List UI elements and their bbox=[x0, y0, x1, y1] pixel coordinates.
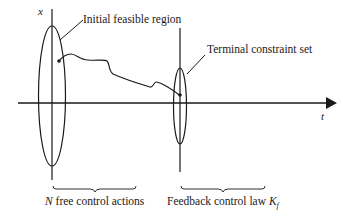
feedback-law-brace bbox=[181, 186, 265, 192]
free-actions-text: free control actions bbox=[53, 195, 145, 207]
free-control-actions-label: N free control actions bbox=[45, 196, 144, 208]
diagram-graphics bbox=[0, 0, 343, 218]
gain-variable: K bbox=[269, 195, 277, 207]
feedback-control-law-label: Feedback control law Kf bbox=[167, 196, 279, 210]
gain-subscript: f bbox=[277, 201, 279, 210]
initial-region-leader bbox=[60, 20, 83, 40]
diagram-canvas: x t Initial feasible region Terminal con… bbox=[0, 0, 343, 218]
trajectory-end-point bbox=[178, 93, 182, 97]
initial-region-label: Initial feasible region bbox=[83, 14, 181, 26]
state-axis-label: x bbox=[38, 6, 43, 17]
time-axis-label: t bbox=[321, 111, 324, 122]
feedback-text: Feedback control law bbox=[167, 195, 269, 207]
terminal-set-leader bbox=[187, 55, 205, 74]
trajectory-start-point bbox=[57, 59, 61, 63]
free-actions-brace bbox=[53, 186, 136, 192]
time-axis-arrowhead-icon bbox=[326, 97, 337, 109]
horizon-variable: N bbox=[45, 195, 53, 207]
state-trajectory bbox=[59, 54, 179, 95]
terminal-set-label: Terminal constraint set bbox=[207, 44, 312, 56]
